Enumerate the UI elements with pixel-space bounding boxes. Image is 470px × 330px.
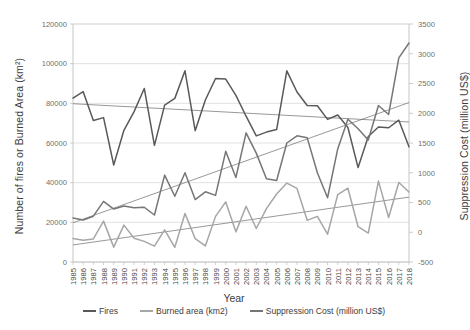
legend-swatch	[83, 310, 96, 312]
y-axis-left-tick-label: 20000	[46, 218, 67, 227]
legend-item[interactable]: Burned area (km2)	[140, 306, 228, 316]
y-axis-right-tick-label: 1000	[418, 169, 435, 178]
x-axis-tick-label: 1990	[120, 268, 129, 285]
y-axis-right-tick-label: 500	[418, 198, 431, 207]
y-axis-right-tick-label: 2000	[418, 109, 435, 118]
x-axis-tick-label: 1996	[181, 268, 190, 285]
x-axis-tick-label: 1986	[79, 268, 88, 285]
x-axis-tick-label: 1991	[130, 268, 139, 285]
x-axis-tick-label: 2015	[374, 268, 383, 285]
x-axis-tick-label: 2008	[303, 268, 312, 285]
y-axis-right-tick-label: 0	[418, 228, 422, 237]
y-axis-left-tick-label: 60000	[46, 139, 67, 148]
y-axis-right-tick-label: -500	[418, 258, 433, 267]
x-axis-tick-label: 2017	[395, 268, 404, 285]
y-axis-right-tick-label: 3000	[418, 50, 435, 59]
x-axis-tick-label: 2018	[405, 268, 414, 285]
x-axis-tick-label: 1994	[161, 268, 170, 285]
y-axis-left-tick-label: 100000	[42, 59, 67, 68]
x-axis-tick-label: 1988	[100, 268, 109, 285]
x-axis-tick-label: 1987	[89, 268, 98, 285]
x-axis-tick-label: 2001	[232, 268, 241, 285]
x-axis-tick-label: 2003	[252, 268, 261, 285]
legend-label: Fires	[99, 306, 118, 316]
x-axis-tick-label: 2000	[222, 268, 231, 285]
x-axis-tick-label: 1993	[150, 268, 159, 285]
y-axis-right-tick-label: 1500	[418, 139, 435, 148]
legend-item[interactable]: Suppression Cost (million US$)	[250, 306, 385, 316]
trendline	[73, 103, 409, 223]
x-axis-tick-label: 2011	[334, 268, 343, 284]
x-axis-tick-label: 2010	[324, 268, 333, 285]
x-axis-tick-label: 1992	[140, 268, 149, 285]
x-axis-tick-label: 2007	[293, 268, 302, 285]
y-axis-right-tick-label: 3500	[418, 20, 435, 29]
x-axis-tick-label: 2013	[354, 268, 363, 285]
legend-swatch	[250, 310, 263, 312]
chart-legend: FiresBurned area (km2)Suppression Cost (…	[0, 306, 468, 316]
x-axis-tick-label: 2006	[283, 268, 292, 285]
x-axis-tick-label: 1985	[69, 268, 78, 285]
x-axis-tick-label: 1989	[110, 268, 119, 285]
x-axis-tick-label: 2002	[242, 268, 251, 285]
y-axis-left-tick-label: 120000	[42, 20, 67, 29]
x-axis-tick-label: 2014	[364, 268, 373, 285]
y-axis-left-tick-label: 0	[63, 258, 67, 267]
y-axis-left-tick-label: 40000	[46, 178, 67, 187]
x-axis-tick-label: 2016	[385, 268, 394, 285]
y-axis-left-tick-label: 80000	[46, 99, 67, 108]
x-axis-tick-label: 2009	[313, 268, 322, 285]
legend-swatch	[140, 310, 153, 312]
x-axis-tick-label: 1998	[201, 268, 210, 285]
x-axis-tick-label: 2005	[273, 268, 282, 285]
legend-label: Burned area (km2)	[156, 306, 228, 316]
x-axis-tick-label: 1995	[171, 268, 180, 285]
x-axis-tick-label: 2004	[262, 268, 271, 285]
legend-item[interactable]: Fires	[83, 306, 118, 316]
x-axis-tick-label: 1999	[212, 268, 221, 285]
x-axis-tick-label: 1997	[191, 268, 200, 285]
series-line	[73, 181, 409, 247]
y-axis-right-tick-label: 2500	[418, 79, 435, 88]
legend-label: Suppression Cost (million US$)	[266, 306, 385, 316]
x-axis-tick-label: 2012	[344, 268, 353, 285]
